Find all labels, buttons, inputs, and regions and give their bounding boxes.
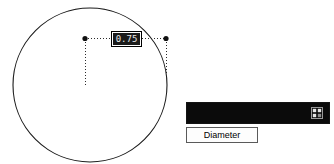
dimension-value-input[interactable]: 0.75 <box>111 31 142 47</box>
snap-point-left[interactable] <box>82 36 87 41</box>
diameter-label-button[interactable]: Diameter <box>186 127 258 143</box>
dimension-value-text[interactable]: 0.75 <box>113 33 140 45</box>
cad-drawing-canvas[interactable]: 0.75 <box>0 0 334 164</box>
circle-entity[interactable] <box>13 8 167 162</box>
dimension-toolbar[interactable] <box>186 102 330 124</box>
snap-point-right[interactable] <box>163 36 168 41</box>
grid-window-icon[interactable] <box>311 107 323 119</box>
drawing-svg <box>0 0 334 164</box>
